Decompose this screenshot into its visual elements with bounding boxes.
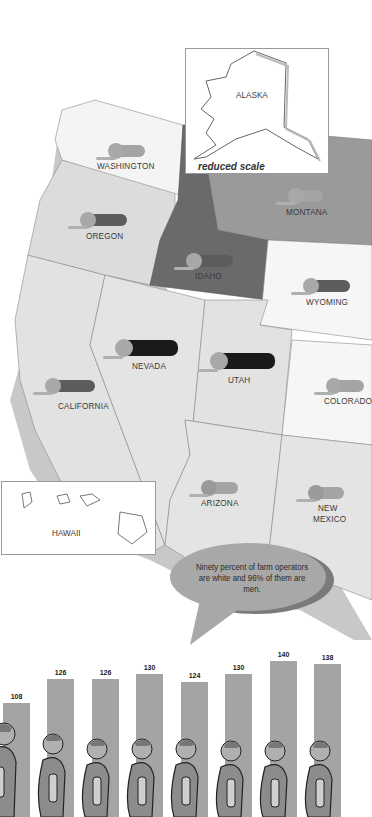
arizona-indicator [203,482,238,494]
alaska-label: ALASKA [236,89,268,100]
new-mexico-label-line1: NEW [318,502,338,513]
nevada-label: NEVADA [132,360,166,371]
callout-text: Ninety percent of farm operators are whi… [193,562,311,595]
alaska-shape [186,49,328,173]
bar-label-2: 126 [47,669,74,676]
bar-label-5: 124 [181,672,208,679]
california-label: CALIFORNIA [58,400,109,411]
new-mexico-label-line2: MEXICO [313,513,346,524]
colorado-label: COLORADO [324,395,372,406]
farmer-figure-1 [0,722,22,817]
farmer-figure-7 [259,739,291,817]
california-indicator [47,380,95,392]
bar-label-4: 130 [136,664,163,671]
farmer-figure-8 [304,739,336,817]
oregon-indicator [82,214,127,226]
bar-label-1: 108 [3,693,30,700]
idaho-indicator [188,255,233,267]
washington-indicator [110,145,145,157]
alaska-inset: ALASKA reduced scale [185,48,329,174]
bar-label-7: 140 [270,651,297,658]
utah-label: UTAH [228,374,250,385]
arizona-label: ARIZONA [201,497,239,508]
new-mexico-indicator [310,487,344,499]
farmer-figure-5 [170,737,202,817]
idaho-label: IDAHO [195,270,222,281]
hawaii-islands [2,482,155,554]
hawaii-label: HAWAII [52,527,80,538]
montana-indicator [290,190,323,202]
speech-bubble [160,540,340,650]
utah-indicator [212,353,275,369]
farmer-figure-6 [215,739,247,817]
bar-label-8: 138 [314,654,341,661]
bar-label-3: 126 [92,669,119,676]
montana-label: MONTANA [286,206,327,217]
wyoming-label: WYOMING [306,296,348,307]
washington-label: WASHINGTON [97,160,155,171]
farmer-figure-2 [37,732,69,817]
farmer-figure-3 [81,737,113,817]
nevada-indicator [117,340,178,356]
hawaii-inset: HAWAII [1,481,156,555]
oregon-label: OREGON [86,230,123,241]
colorado-indicator [328,380,364,392]
bar-chart: 108 126 126 130 124 130 140 138 [0,640,372,817]
reduced-scale-note: reduced scale [198,161,265,172]
farmer-figure-4 [126,737,158,817]
wyoming-indicator [305,280,350,292]
bar-label-6: 130 [225,664,252,671]
